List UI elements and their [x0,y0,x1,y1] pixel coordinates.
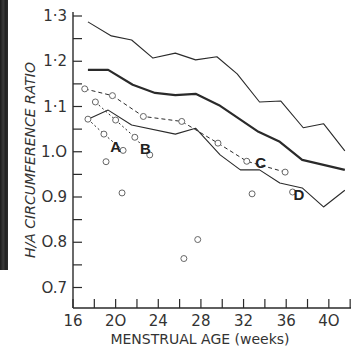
y-tick-label: 1·3 [43,7,67,25]
data-point-circle [92,99,98,105]
data-point-circle [109,93,115,99]
x-tick-label: 24 [149,312,168,330]
x-tick-label: 16 [63,312,82,330]
data-point-circle [103,159,109,165]
annotation-D: D [294,186,305,203]
data-point-circle [85,116,91,122]
axes: O.7O.8O.91.O1·11·21·3162O242832364O [41,7,351,330]
line-chart: O.7O.8O.91.O1·11·21·3162O242832364O ABCD… [0,0,358,353]
data-point-circle [181,256,187,262]
data-point-circle [113,117,119,123]
data-point-circle [101,131,107,137]
annotation-A: A [110,138,121,155]
data-point-circle [215,140,221,146]
data-point-circle [140,113,146,119]
series-lower-normal-limit [88,110,345,207]
annotation-C: C [255,154,266,171]
x-tick-label: 28 [191,312,210,330]
x-tick-label: 4O [318,312,339,330]
series-layer [82,22,345,207]
data-point-circle [82,86,88,92]
series-upper-normal-limit [88,22,345,151]
y-tick-label: 1·2 [43,52,67,70]
data-point-circle [119,190,125,196]
annotations: ABCD [110,138,304,203]
series-mean [88,70,345,170]
x-tick-label: 2O [105,312,126,330]
y-axis-title: H/A CIRCUMFERENCE RATIO [22,62,38,258]
x-tick-label: 36 [277,312,296,330]
x-tick-label: 32 [234,312,253,330]
data-point-circle [249,191,255,197]
x-axis-title: MENSTRUAL AGE (weeks) [110,331,289,347]
y-tick-label: O.8 [41,233,67,251]
data-point-circle [195,237,201,243]
data-point-circle [282,169,288,175]
y-tick-label: O.7 [41,279,67,297]
data-point-circle [244,158,250,164]
annotation-B: B [140,140,151,157]
y-tick-label: 1·1 [43,98,67,116]
data-point-circle [132,134,138,140]
data-point-circle [179,118,185,124]
y-tick-label: 1.O [41,143,67,161]
y-tick-label: O.9 [41,188,67,206]
